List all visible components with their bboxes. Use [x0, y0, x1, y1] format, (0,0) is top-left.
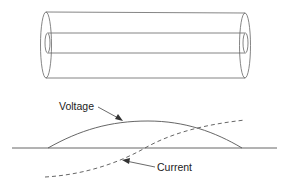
voltage-arrowhead-icon [115, 114, 123, 121]
current-curve [45, 120, 245, 177]
outer-top-edge [46, 12, 245, 13]
current-label: Current [157, 161, 192, 173]
coax-wave-diagram: Voltage Current [0, 0, 291, 183]
coaxial-cable [41, 12, 251, 78]
voltage-label: Voltage [59, 100, 94, 112]
inner-right-end [243, 33, 248, 53]
waveforms [12, 120, 277, 177]
voltage-annotation: Voltage [59, 100, 123, 121]
inner-left-end [45, 33, 50, 53]
current-arrow-line [126, 161, 155, 167]
current-annotation: Current [122, 158, 192, 173]
outer-right-end [240, 13, 251, 78]
